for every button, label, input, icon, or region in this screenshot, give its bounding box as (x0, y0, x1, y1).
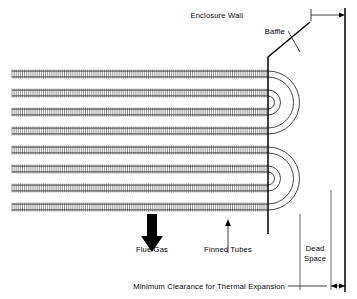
finned-tube-row (12, 89, 268, 98)
dead-space-label-line2: Space (304, 254, 326, 263)
flue-gas-label: Flue Gas (136, 245, 168, 254)
bend-outer-wall (268, 71, 300, 134)
return-bend-group-lower (268, 147, 300, 210)
diagram-canvas: Enclosure Wall Baffle Flue Gas Finned Tu… (0, 0, 357, 299)
finned-tube-row (12, 184, 268, 193)
finned-tubes-label: Finned Tubes (204, 245, 252, 254)
dead-space-label-line1: Dead (306, 244, 325, 253)
enclosure-wall-leader (311, 9, 345, 21)
bend-outer-wall (268, 147, 300, 210)
finned-tube-row (12, 108, 268, 117)
finned-tube-row (12, 165, 268, 174)
right-arrow-leader-icon (339, 12, 345, 17)
finned-tube-bank (12, 70, 268, 212)
diagonal-leader-icon (288, 31, 300, 52)
tube-return-bends (268, 71, 300, 210)
bend-inner-wall (268, 96, 275, 109)
finned-tube-row (12, 70, 268, 79)
heat-exchanger-diagram: Enclosure Wall Baffle Flue Gas Finned Tu… (0, 0, 357, 299)
double-headed-arrow-icon (331, 283, 345, 288)
finned-tube-row (12, 203, 268, 212)
return-bend-group-upper (268, 71, 300, 134)
clearance-dimension (288, 283, 345, 288)
baffle-label: Baffle (265, 27, 285, 36)
minimum-clearance-label: Minimum Clearance for Thermal Expansion (133, 282, 285, 291)
bend-inner-wall (268, 172, 275, 185)
finned-tube-row (12, 127, 268, 136)
finned-tube-row (12, 146, 268, 155)
dead-space-boundaries (300, 190, 331, 290)
enclosure-wall-label: Enclosure Wall (191, 11, 244, 20)
baffle-leader (288, 31, 300, 52)
up-arrow-leader-icon (225, 219, 231, 226)
